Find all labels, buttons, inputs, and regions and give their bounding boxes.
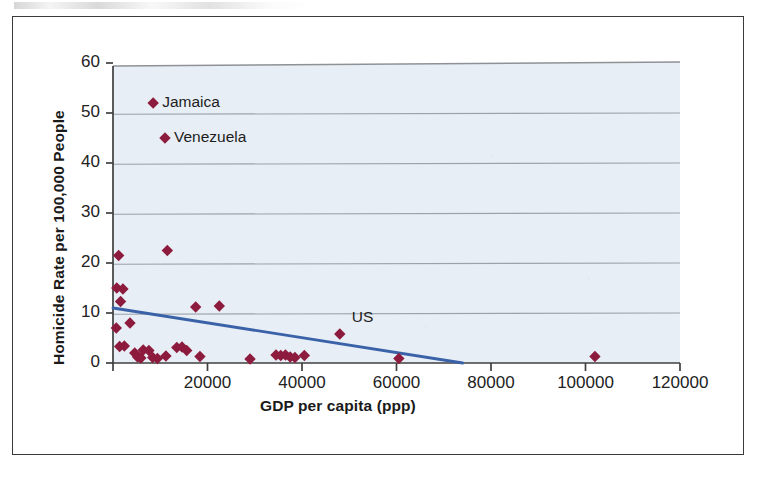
- x-axis-tick-label: 60000: [352, 373, 442, 393]
- x-axis-tick-label: 40000: [257, 373, 347, 393]
- x-axis-tick-label: 100000: [541, 373, 631, 393]
- x-axis-tick-label: 80000: [446, 373, 536, 393]
- y-axis-tick-label: 40: [50, 152, 100, 172]
- y-axis-title: Homicide Rate per 100,000 People: [50, 110, 68, 365]
- y-axis-tick-label: 0: [50, 352, 100, 372]
- data-point-label: Venezuela: [174, 128, 246, 146]
- y-axis-tick-label: 50: [50, 102, 100, 122]
- data-point-label: Jamaica: [162, 93, 220, 111]
- x-axis-title: GDP per capita (ppp): [260, 397, 416, 415]
- y-axis-tick-label: 60: [50, 52, 100, 72]
- x-axis-tick-label: 120000: [635, 373, 725, 393]
- y-axis-tick-label: 20: [50, 252, 100, 272]
- data-point-label: US: [352, 308, 374, 326]
- y-axis-tick-label: 10: [50, 302, 100, 322]
- x-axis-tick-label: 20000: [163, 373, 253, 393]
- y-axis-tick-label: 30: [50, 202, 100, 222]
